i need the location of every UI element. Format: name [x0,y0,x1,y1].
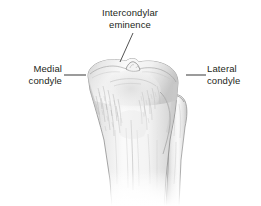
tibia-illustration [0,0,261,206]
anatomy-figure: Intercondylar eminence Medial condyle La… [0,0,261,206]
label-medial-condyle: Medial condyle [6,63,62,86]
leader-line-intercondylar [120,33,133,62]
label-lateral-condyle: Lateral condyle [207,63,259,86]
bottom-fade [78,172,194,206]
label-intercondylar-eminence: Intercondylar eminence [82,7,178,30]
